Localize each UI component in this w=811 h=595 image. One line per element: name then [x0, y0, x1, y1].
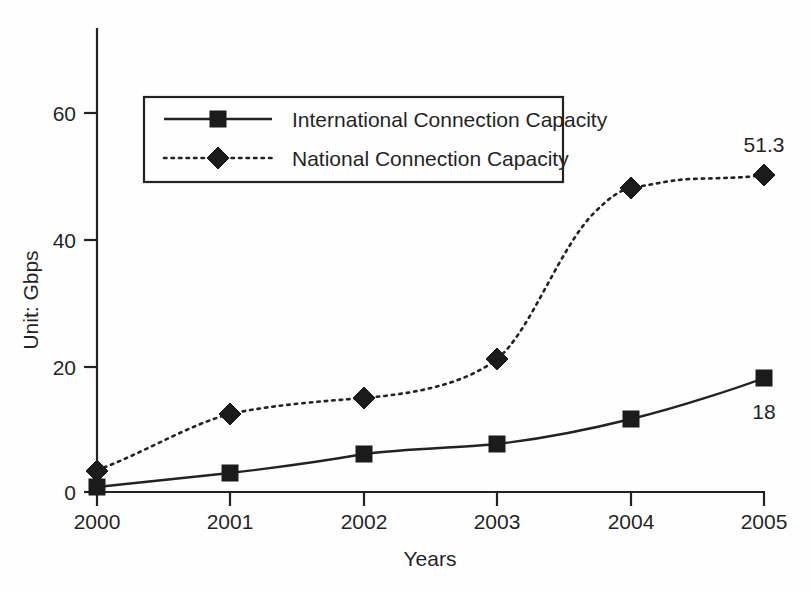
legend-label-international: International Connection Capacity: [292, 108, 608, 131]
international-point-2001: [222, 465, 238, 481]
y-tick-label-60: 60: [53, 102, 76, 125]
y-axis-tick-labels: 60 40 20 0: [53, 102, 76, 504]
x-axis-title: Years: [404, 547, 457, 570]
international-line: [97, 378, 764, 487]
international-point-2005: [756, 370, 772, 386]
x-tick-label-2005: 2005: [741, 510, 788, 533]
international-point-2002: [356, 446, 372, 462]
x-axis-tick-labels: 2000 2001 2002 2003 2004 2005: [74, 510, 788, 533]
y-axis-title: Unit: Gbps: [19, 250, 42, 349]
international-end-value-label: 18: [752, 400, 775, 423]
national-end-value-label: 51.3: [744, 133, 785, 156]
national-point-2001: [219, 403, 241, 425]
chart-legend: International Connection Capacity Nation…: [144, 97, 608, 182]
square-marker-icon: [210, 111, 226, 127]
international-point-2004: [623, 411, 639, 427]
y-tick-label-0: 0: [64, 481, 76, 504]
x-tick-label-2000: 2000: [74, 510, 121, 533]
series-international-connection-capacity: 18: [89, 370, 776, 495]
x-tick-label-2003: 2003: [474, 510, 521, 533]
y-tick-label-20: 20: [53, 356, 76, 379]
national-line: [97, 175, 764, 470]
y-tick-label-40: 40: [53, 229, 76, 252]
international-point-2000: [89, 479, 105, 495]
x-tick-label-2004: 2004: [608, 510, 655, 533]
x-axis-ticks: [97, 492, 764, 506]
series-national-connection-capacity: 51.3: [86, 133, 784, 482]
national-point-2004: [620, 177, 642, 199]
legend-label-national: National Connection Capacity: [292, 147, 569, 170]
x-tick-label-2001: 2001: [207, 510, 254, 533]
y-axis-ticks: [84, 113, 97, 492]
national-point-2005: [753, 164, 775, 186]
international-point-2003: [489, 436, 505, 452]
chart-canvas: 60 40 20 0 2000 2001 2002 2003 2004 2005…: [0, 0, 811, 595]
national-point-2002: [353, 387, 375, 409]
line-chart: 60 40 20 0 2000 2001 2002 2003 2004 2005…: [0, 0, 811, 595]
x-tick-label-2002: 2002: [341, 510, 388, 533]
